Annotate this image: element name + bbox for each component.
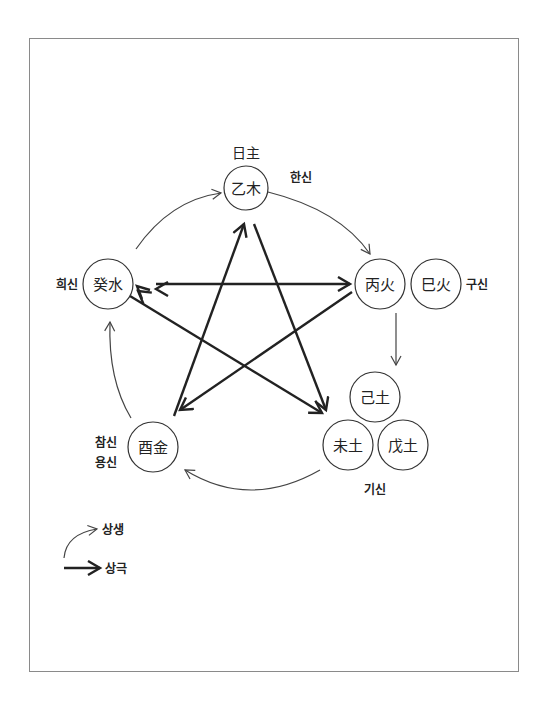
legend-generating-label: 상생 [102,522,124,537]
label-han-sin: 한신 [290,170,312,185]
legend-generating-arrow-icon [64,529,97,558]
legend-controlling-label: 상극 [105,561,127,576]
label-gi-sin: 기신 [364,482,386,497]
arrow-eulmok-to-byeonghwa [268,192,370,254]
node-mito: 未土 [323,420,373,470]
node-muto: 戊土 [378,420,428,470]
label-gu-sin: 구신 [466,277,488,292]
svg-text:巳火: 巳火 [421,276,451,294]
arrow-yugeum-to-gyesu [110,322,131,418]
node-gito: 己土 [350,372,400,422]
node-byeonghwa: 丙火 [355,259,405,309]
legend: 상생 상극 [64,522,127,576]
controlling-arrows [130,224,352,416]
label-cham-sin: 참신 [95,435,117,450]
node-eulmok: 乙木 [224,166,268,210]
svg-text:癸水: 癸水 [93,276,123,294]
svg-text:己土: 己土 [360,389,390,407]
arrow-mito-to-yugeum [185,470,320,490]
node-yugeum: 酉金 [128,422,178,472]
ilju-label: 日主 [232,145,260,161]
svg-text:戊土: 戊土 [388,437,418,455]
label-hui-sin: 희신 [56,277,78,292]
svg-text:酉金: 酉金 [138,439,168,457]
five-elements-diagram: 乙木 日主 癸水 丙火 巳火 己土 未土 戊土 酉金 한신 구신 희신 기신 참… [0,0,550,707]
arrowhead-gyesu [137,286,150,299]
arrow-gyesu-to-mito [130,296,322,413]
arrow-gyesu-to-eulmok [136,193,221,249]
svg-text:乙木: 乙木 [231,180,261,198]
arrow-head-into-gyesu [138,291,190,330]
svg-text:丙火: 丙火 [365,276,395,294]
arrow-byeonghwa-to-yugeum [180,292,352,410]
node-sahwa: 巳火 [411,259,461,309]
svg-text:未土: 未土 [333,437,363,455]
arrow-yugeum-to-eulmok [174,224,244,416]
node-gyesu: 癸水 [83,259,133,309]
label-yong-sin: 용신 [95,455,117,470]
